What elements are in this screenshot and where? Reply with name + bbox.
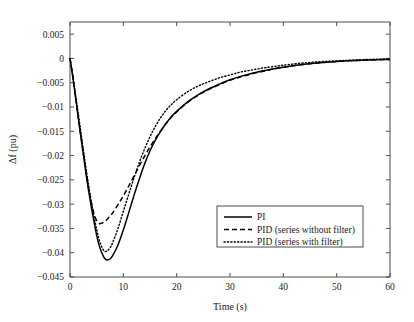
chart-figure: 01020304050600.0050−0.005−0.01−0.015−0.0… [0,0,414,322]
y-tick-label: −0.01 [42,102,64,112]
x-tick-label: 40 [279,282,289,292]
y-axis-title: Δf (pu) [7,135,19,164]
y-tick-label: −0.005 [37,78,64,88]
x-tick-label: 20 [172,282,182,292]
x-tick-label: 10 [119,282,129,292]
legend-label-1: PI [257,212,265,222]
y-tick-label: −0.03 [42,200,64,210]
x-tick-label: 0 [68,282,73,292]
y-tick-label: −0.045 [37,272,64,282]
y-tick-label: −0.015 [37,127,64,137]
x-tick-label: 50 [332,282,342,292]
frequency-deviation-chart: 01020304050600.0050−0.005−0.01−0.015−0.0… [0,0,414,322]
legend-label-2: PID (series without filter) [257,225,355,236]
y-tick-label: 0.005 [43,30,65,40]
y-tick-label: −0.04 [42,248,64,258]
x-tick-label: 60 [385,282,395,292]
y-tick-label: −0.02 [42,151,64,161]
x-axis-title: Time (s) [213,301,247,313]
y-tick-label: −0.025 [37,175,64,185]
y-tick-label: 0 [59,54,64,64]
y-tick-label: −0.035 [37,224,64,234]
x-tick-label: 30 [225,282,235,292]
chart-legend[interactable]: PIPID (series without filter)PID (series… [217,206,363,248]
legend-label-3: PID (series with filter) [257,237,343,248]
